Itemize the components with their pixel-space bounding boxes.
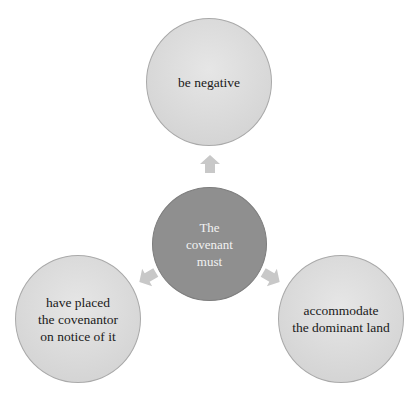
node-right-label: accommodate the dominant land <box>292 302 389 336</box>
node-left: have placed the covenantor on notice of … <box>15 255 141 383</box>
node-right: accommodate the dominant land <box>278 255 404 383</box>
arrow-down-left-icon <box>137 266 159 288</box>
arrow-down-right-icon <box>260 266 282 288</box>
node-top-label: be negative <box>178 74 240 91</box>
arrow-up-icon <box>199 154 221 174</box>
node-center-label: The covenant must <box>186 219 233 270</box>
node-center: The covenant must <box>152 187 267 301</box>
node-left-label: have placed the covenantor on notice of … <box>38 294 118 345</box>
node-top: be negative <box>146 18 272 146</box>
